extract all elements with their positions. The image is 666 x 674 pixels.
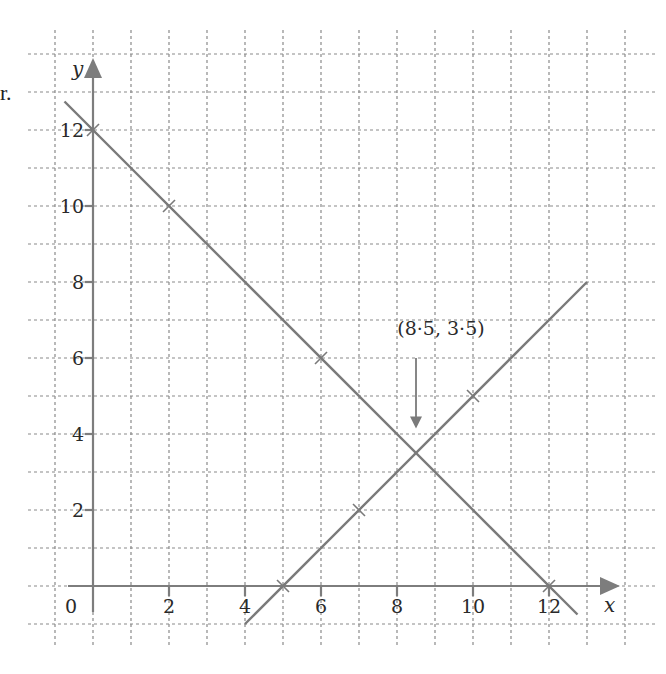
annotations: (8·5, 3·5) <box>397 317 484 428</box>
x-tick-label: 2 <box>163 595 175 617</box>
y-tick-label: 10 <box>60 195 84 217</box>
y-axis-label: y <box>71 57 84 81</box>
arrow-down-icon <box>410 416 422 428</box>
axes: yx <box>68 57 620 617</box>
x-tick-label: 12 <box>537 595 561 617</box>
tick-labels: 02468101224681012 <box>60 119 561 617</box>
x-tick-label: 6 <box>315 595 327 617</box>
x-tick-label: 4 <box>239 595 251 617</box>
intersection-label: (8·5, 3·5) <box>397 317 484 339</box>
x-tick-label: 0 <box>65 595 77 617</box>
line-chart: r. yx 02468101224681012 (8·5, 3·5) <box>0 0 666 674</box>
y-tick-label: 4 <box>72 423 84 445</box>
grid <box>28 30 655 648</box>
y-tick-label: 8 <box>72 271 84 293</box>
y-axis-arrow-icon <box>84 58 102 78</box>
x-tick-label: 10 <box>461 595 485 617</box>
x-axis-label: x <box>604 593 615 617</box>
y-tick-label: 12 <box>60 119 84 141</box>
x-tick-label: 8 <box>391 595 403 617</box>
series-lines <box>65 102 588 625</box>
y-tick-label: 2 <box>72 499 84 521</box>
y-tick-label: 6 <box>72 347 84 369</box>
page-fragment-text: r. <box>0 80 12 105</box>
